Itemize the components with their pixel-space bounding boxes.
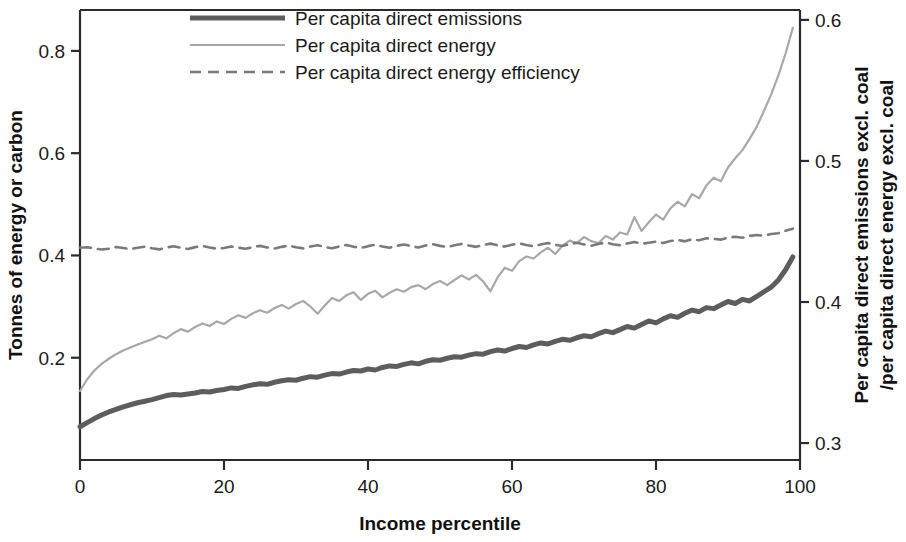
x-axis-title: Income percentile bbox=[359, 513, 521, 534]
x-axis-tick-label: 0 bbox=[75, 476, 86, 497]
y2-axis-tick-label: 0.3 bbox=[815, 433, 841, 454]
y2-axis-title-line1: Per capita direct emissions excl. coal bbox=[851, 67, 872, 404]
y-axis-tick-label: 0.8 bbox=[39, 41, 65, 62]
y-axis-title: Tonnes of energy or carbon bbox=[5, 110, 26, 360]
x-axis-tick-label: 100 bbox=[784, 476, 816, 497]
y2-axis-tick-label: 0.6 bbox=[815, 10, 841, 31]
y2-axis-title-line2: /per capita direct energy excl. coal bbox=[876, 80, 897, 390]
y2-axis-tick-label: 0.4 bbox=[815, 292, 842, 313]
legend-label-1: Per capita direct energy bbox=[295, 35, 496, 56]
y2-axis-tick-label: 0.5 bbox=[815, 151, 841, 172]
y-axis-tick-label: 0.2 bbox=[39, 348, 65, 369]
legend-label-2: Per capita direct energy efficiency bbox=[295, 62, 580, 83]
legend-label-0: Per capita direct emissions bbox=[295, 8, 522, 29]
y-axis-tick-label: 0.4 bbox=[39, 245, 66, 266]
x-axis-tick-label: 80 bbox=[645, 476, 666, 497]
chart-canvas: 0.20.40.60.80.30.40.50.6020406080100Inco… bbox=[0, 0, 906, 542]
x-axis-tick-label: 60 bbox=[501, 476, 522, 497]
x-axis-tick-label: 20 bbox=[213, 476, 234, 497]
chart-figure: 0.20.40.60.80.30.40.50.6020406080100Inco… bbox=[0, 0, 906, 542]
x-axis-tick-label: 40 bbox=[357, 476, 378, 497]
series-line-2 bbox=[80, 229, 793, 250]
y-axis-tick-label: 0.6 bbox=[39, 143, 65, 164]
